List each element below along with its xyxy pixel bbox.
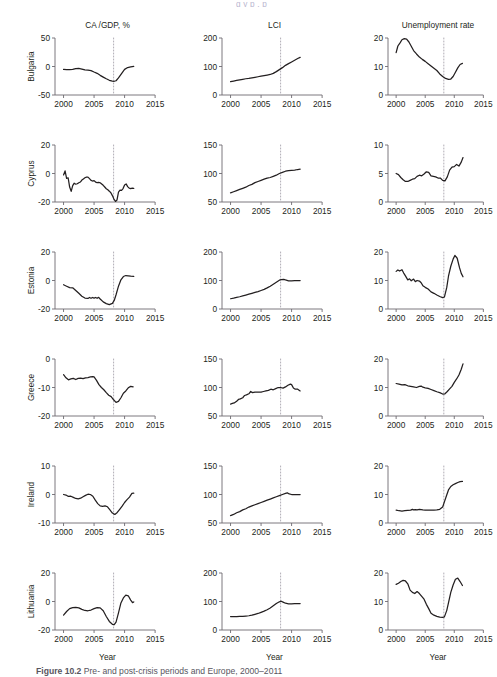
svg-text:2010: 2010 xyxy=(282,99,301,109)
column-title-unemployment: Unemployment rate xyxy=(388,20,488,30)
svg-text:2005: 2005 xyxy=(416,634,435,644)
svg-text:200: 200 xyxy=(203,568,217,578)
chart-panel-ireland-lci: 501001502000200520102015 xyxy=(196,460,335,537)
svg-text:100: 100 xyxy=(203,597,217,607)
svg-text:0: 0 xyxy=(212,304,217,314)
svg-text:2015: 2015 xyxy=(313,527,332,537)
svg-text:2015: 2015 xyxy=(313,313,332,323)
svg-text:2005: 2005 xyxy=(252,313,271,323)
svg-text:2010: 2010 xyxy=(115,99,134,109)
svg-text:2005: 2005 xyxy=(416,527,435,537)
svg-text:2015: 2015 xyxy=(474,527,493,537)
svg-text:10: 10 xyxy=(374,597,384,607)
svg-text:100: 100 xyxy=(203,383,217,393)
svg-text:20: 20 xyxy=(374,568,384,578)
chart-panel-cyprus-ca_gdp: -200202000200520102015 xyxy=(29,139,168,216)
svg-text:10: 10 xyxy=(374,383,384,393)
svg-text:-20: -20 xyxy=(38,625,50,635)
figure-panel-grid: g y p , p CA /GDP, %LCIUnemployment rate… xyxy=(0,0,497,677)
svg-text:2010: 2010 xyxy=(282,206,301,216)
svg-text:0: 0 xyxy=(378,197,383,207)
svg-text:2000: 2000 xyxy=(54,634,73,644)
chart-panel-lithuania-unemployment: 010202000200520102015 xyxy=(362,567,496,644)
svg-text:100: 100 xyxy=(203,169,217,179)
svg-text:150: 150 xyxy=(203,140,217,150)
svg-text:20: 20 xyxy=(374,247,384,257)
svg-text:10: 10 xyxy=(41,461,51,471)
chart-panel-lithuania-lci: 01002002000200520102015 xyxy=(196,567,335,644)
x-axis-label-lci: Year xyxy=(222,652,327,662)
svg-text:0: 0 xyxy=(212,625,217,635)
svg-text:2015: 2015 xyxy=(313,206,332,216)
header-strip: g y p , p xyxy=(236,0,497,7)
svg-text:0: 0 xyxy=(378,90,383,100)
caption-number: Figure 10.2 xyxy=(36,666,81,676)
caption-text: Pre- and post-crisis periods and Europe,… xyxy=(84,666,283,676)
svg-text:-20: -20 xyxy=(38,304,50,314)
chart-panel-ireland-ca_gdp: -100102000200520102015 xyxy=(29,460,168,537)
svg-text:-10: -10 xyxy=(38,383,50,393)
svg-text:2010: 2010 xyxy=(282,313,301,323)
svg-text:2000: 2000 xyxy=(387,527,406,537)
svg-text:5: 5 xyxy=(378,169,383,179)
svg-text:2005: 2005 xyxy=(85,313,104,323)
svg-text:100: 100 xyxy=(203,62,217,72)
svg-text:2015: 2015 xyxy=(313,99,332,109)
svg-text:0: 0 xyxy=(378,625,383,635)
svg-text:2005: 2005 xyxy=(252,634,271,644)
svg-text:2010: 2010 xyxy=(445,313,464,323)
svg-text:2010: 2010 xyxy=(445,634,464,644)
chart-panel-bulgaria-lci: 01002002000200520102015 xyxy=(196,32,335,109)
svg-text:2005: 2005 xyxy=(252,99,271,109)
svg-text:2010: 2010 xyxy=(115,313,134,323)
svg-text:2005: 2005 xyxy=(85,206,104,216)
chart-panel-estonia-lci: 01002002000200520102015 xyxy=(196,246,335,323)
svg-text:2005: 2005 xyxy=(85,634,104,644)
svg-text:2005: 2005 xyxy=(252,206,271,216)
svg-text:2015: 2015 xyxy=(474,206,493,216)
svg-text:2005: 2005 xyxy=(416,99,435,109)
svg-text:2000: 2000 xyxy=(221,206,240,216)
svg-text:2000: 2000 xyxy=(54,99,73,109)
svg-text:100: 100 xyxy=(203,276,217,286)
svg-text:200: 200 xyxy=(203,33,217,43)
svg-text:2000: 2000 xyxy=(387,634,406,644)
svg-text:0: 0 xyxy=(45,354,50,364)
svg-text:2000: 2000 xyxy=(387,313,406,323)
svg-text:2015: 2015 xyxy=(474,420,493,430)
chart-panel-estonia-ca_gdp: -200202000200520102015 xyxy=(29,246,168,323)
svg-text:2000: 2000 xyxy=(221,99,240,109)
chart-panel-bulgaria-unemployment: 010202000200520102015 xyxy=(362,32,496,109)
svg-text:0: 0 xyxy=(45,597,50,607)
chart-panel-lithuania-ca_gdp: -200202000200520102015 xyxy=(29,567,168,644)
svg-text:2000: 2000 xyxy=(387,420,406,430)
svg-text:2015: 2015 xyxy=(474,99,493,109)
chart-panel-greece-ca_gdp: -20-1002000200520102015 xyxy=(29,353,168,430)
column-title-lci: LCI xyxy=(222,20,327,30)
svg-text:2015: 2015 xyxy=(146,313,165,323)
column-title-ca_gdp: CA /GDP, % xyxy=(55,20,160,30)
svg-text:150: 150 xyxy=(203,354,217,364)
svg-text:2000: 2000 xyxy=(387,206,406,216)
svg-text:2010: 2010 xyxy=(445,420,464,430)
svg-text:2000: 2000 xyxy=(54,206,73,216)
svg-text:2005: 2005 xyxy=(252,527,271,537)
x-axis-label-ca_gdp: Year xyxy=(55,652,160,662)
chart-panel-greece-unemployment: 010202000200520102015 xyxy=(362,353,496,430)
x-axis-label-unemployment: Year xyxy=(388,652,488,662)
svg-text:2000: 2000 xyxy=(221,420,240,430)
svg-text:0: 0 xyxy=(45,490,50,500)
svg-text:0: 0 xyxy=(45,169,50,179)
svg-text:-20: -20 xyxy=(38,411,50,421)
svg-text:2010: 2010 xyxy=(282,527,301,537)
svg-text:0: 0 xyxy=(45,276,50,286)
svg-text:2010: 2010 xyxy=(115,527,134,537)
svg-text:2010: 2010 xyxy=(282,634,301,644)
chart-panel-cyprus-unemployment: 05102000200520102015 xyxy=(362,139,496,216)
svg-text:10: 10 xyxy=(374,490,384,500)
svg-text:2010: 2010 xyxy=(445,206,464,216)
svg-text:2000: 2000 xyxy=(54,527,73,537)
svg-text:20: 20 xyxy=(41,140,51,150)
svg-text:20: 20 xyxy=(374,354,384,364)
svg-text:2000: 2000 xyxy=(54,420,73,430)
